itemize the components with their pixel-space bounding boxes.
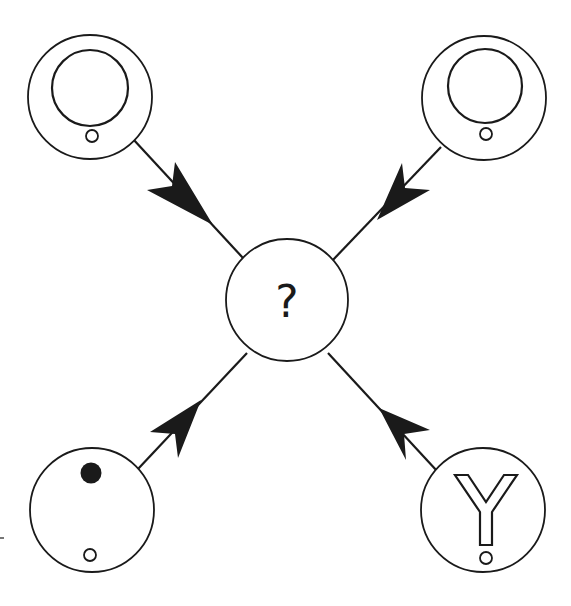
edge-bottom-left	[138, 353, 247, 469]
node-center[interactable]: ?	[226, 239, 348, 361]
node-top-right[interactable]	[422, 36, 546, 160]
arrowhead-icon	[379, 408, 430, 460]
edge-bottom-right	[328, 353, 437, 471]
question-mark-label: ?	[275, 276, 298, 327]
arrowhead-icon	[377, 163, 430, 220]
filled-dot-icon	[81, 463, 102, 484]
diagram-canvas: ?	[0, 0, 571, 606]
small-circle-icon	[84, 549, 96, 561]
node-bottom-right[interactable]	[421, 448, 545, 572]
small-circle-icon	[86, 130, 98, 142]
node-bottom-left[interactable]	[30, 448, 154, 572]
edge-top-right	[331, 147, 441, 262]
node-top-left[interactable]	[28, 35, 152, 159]
arrowhead-icon	[147, 162, 213, 225]
edge-top-left	[133, 139, 243, 258]
small-circle-icon	[480, 552, 492, 564]
small-circle-icon	[480, 128, 492, 140]
